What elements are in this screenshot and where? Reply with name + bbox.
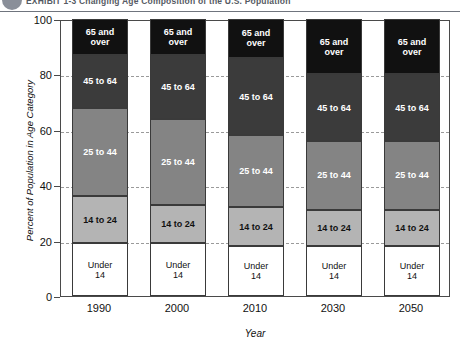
bar-segment: 45 to 64 bbox=[306, 74, 362, 140]
bar-segment: 45 to 64 bbox=[72, 55, 128, 108]
bar-segment: 65 and over bbox=[150, 19, 206, 55]
bar-segment: 14 to 24 bbox=[306, 210, 362, 246]
x-tick-label: 2050 bbox=[371, 302, 451, 314]
bar-segment-label: 14 to 24 bbox=[161, 219, 195, 229]
bar-segment: 25 to 44 bbox=[228, 135, 284, 207]
bar-segment: 25 to 44 bbox=[150, 119, 206, 205]
y-tick-label: 40 bbox=[6, 180, 52, 192]
x-axis-title: Year bbox=[60, 328, 450, 339]
bar-segment: 14 to 24 bbox=[384, 210, 440, 246]
bar-segment-label: 65 and over bbox=[164, 27, 193, 47]
bar-segment: 25 to 44 bbox=[306, 141, 362, 210]
x-tick-label: 2030 bbox=[293, 302, 373, 314]
stacked-bar: Under 1414 to 2425 to 4445 to 6465 and o… bbox=[72, 19, 128, 296]
bar-segment: 25 to 44 bbox=[384, 141, 440, 210]
bar-segment: 14 to 24 bbox=[228, 207, 284, 246]
bar-segment-label: 14 to 24 bbox=[395, 223, 429, 233]
y-tick-label: 20 bbox=[6, 236, 52, 248]
x-tick-label: 1990 bbox=[59, 302, 139, 314]
bar-segment-label: 25 to 44 bbox=[161, 157, 195, 167]
bar-segment-label: 45 to 64 bbox=[161, 82, 195, 92]
stacked-bar: Under 1414 to 2425 to 4445 to 6465 and o… bbox=[150, 19, 206, 296]
stacked-bar: Under 1414 to 2425 to 4445 to 6465 and o… bbox=[384, 19, 440, 296]
bar-segment: 65 and over bbox=[72, 19, 128, 55]
bar-segment-label: Under 14 bbox=[400, 261, 425, 281]
bar-segment-label: Under 14 bbox=[244, 261, 269, 281]
bar-segment-label: 45 to 64 bbox=[317, 103, 351, 113]
exhibit-title: EXHIBIT 1-3 Changing Age Composition of … bbox=[26, 0, 291, 6]
bar-segment-label: 65 and over bbox=[86, 27, 115, 47]
bar-segment: 45 to 64 bbox=[384, 74, 440, 140]
bar-segment: 14 to 24 bbox=[72, 196, 128, 243]
bar-segment-label: 25 to 44 bbox=[395, 170, 429, 180]
bar-segment-label: Under 14 bbox=[322, 261, 347, 281]
bar-segment-label: 14 to 24 bbox=[239, 222, 273, 232]
exhibit-header-band: EXHIBIT 1-3 Changing Age Composition of … bbox=[0, 0, 460, 13]
bar-segment-label: 65 and over bbox=[242, 28, 271, 48]
bar-segment: 14 to 24 bbox=[150, 205, 206, 244]
bar-segment: 25 to 44 bbox=[72, 108, 128, 197]
bar-segment-label: 25 to 44 bbox=[239, 166, 273, 176]
bar-segment-label: 45 to 64 bbox=[395, 103, 429, 113]
bar-segment-label: 25 to 44 bbox=[317, 170, 351, 180]
bar-segment-label: 14 to 24 bbox=[317, 223, 351, 233]
bar-segment: Under 14 bbox=[384, 246, 440, 296]
bar-segment: 45 to 64 bbox=[150, 55, 206, 119]
bar-segment-label: 65 and over bbox=[398, 37, 427, 57]
bar-segment: Under 14 bbox=[306, 246, 362, 296]
bar-segment: 65 and over bbox=[384, 19, 440, 74]
bar-segment: 45 to 64 bbox=[228, 58, 284, 136]
y-tick-label: 100 bbox=[6, 14, 52, 26]
y-tick-label: 0 bbox=[6, 291, 52, 303]
chart-plot-area: Under 1414 to 2425 to 4445 to 6465 and o… bbox=[60, 20, 450, 297]
bar-segment: Under 14 bbox=[150, 243, 206, 296]
bar-segment-label: Under 14 bbox=[88, 260, 113, 280]
y-tick-label: 60 bbox=[6, 125, 52, 137]
bar-segment: Under 14 bbox=[228, 246, 284, 296]
bar-segment: Under 14 bbox=[72, 243, 128, 296]
x-tick-label: 2010 bbox=[215, 302, 295, 314]
bar-segment-label: 45 to 64 bbox=[83, 76, 117, 86]
bar-segment: 65 and over bbox=[228, 19, 284, 58]
bar-segment-label: Under 14 bbox=[166, 260, 191, 280]
bar-segment-label: 14 to 24 bbox=[83, 215, 117, 225]
bar-segment: 65 and over bbox=[306, 19, 362, 74]
bar-segment-label: 25 to 44 bbox=[83, 147, 117, 157]
stacked-bar: Under 1414 to 2425 to 4445 to 6465 and o… bbox=[228, 19, 284, 296]
y-tick-label: 80 bbox=[6, 69, 52, 81]
bar-segment-label: 45 to 64 bbox=[239, 92, 273, 102]
x-tick-label: 2000 bbox=[137, 302, 217, 314]
header-divider bbox=[0, 11, 460, 12]
y-tick-mark bbox=[54, 297, 60, 298]
bullet-circle-icon bbox=[2, 0, 22, 10]
stacked-bar: Under 1414 to 2425 to 4445 to 6465 and o… bbox=[306, 19, 362, 296]
bar-segment-label: 65 and over bbox=[320, 37, 349, 57]
